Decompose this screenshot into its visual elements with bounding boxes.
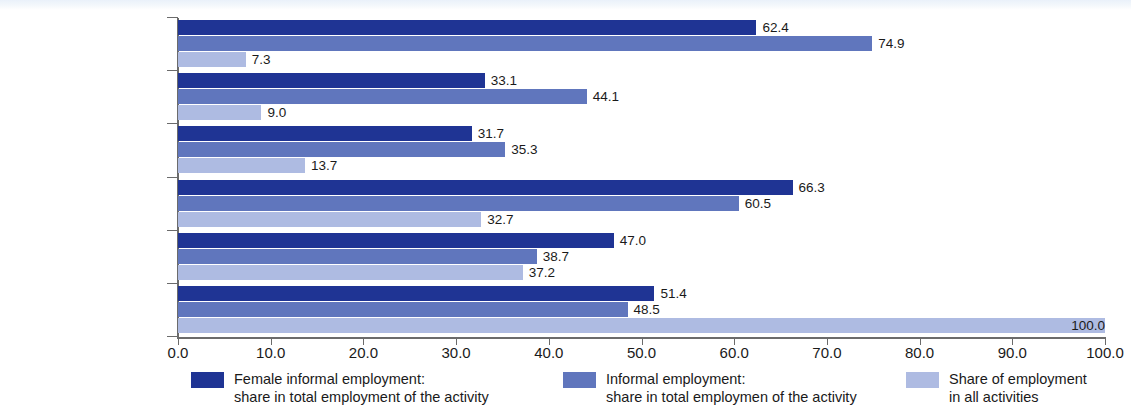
bar-value-label: 7.3 — [246, 52, 271, 67]
legend-label: Share of employment in all activities — [949, 370, 1087, 406]
x-tick-label: 30.0 — [441, 344, 470, 361]
bar-value-label: 66.3 — [793, 180, 825, 195]
legend-item-2: Share of employment in all activities — [906, 370, 1087, 406]
legend-item-1: Informal employment: share in total empl… — [563, 370, 857, 406]
bar-value-label: 37.2 — [523, 265, 555, 280]
x-tick-label: 70.0 — [812, 344, 841, 361]
bar-value-label: 47.0 — [614, 233, 646, 248]
bar-value-label: 38.7 — [537, 249, 569, 264]
bar-1 — [178, 196, 739, 211]
x-tick-label: 50.0 — [627, 344, 656, 361]
bar-1 — [178, 36, 872, 51]
chart-legend: Female informal employment: share in tot… — [0, 364, 1131, 418]
bar-0 — [178, 20, 756, 35]
legend-swatch-icon — [563, 372, 596, 388]
bar-0 — [178, 233, 614, 248]
y-tick — [167, 17, 178, 18]
bar-group: Services other than trade or transportat… — [0, 233, 927, 280]
bar-value-label: 35.3 — [505, 142, 537, 157]
legend-swatch-icon — [191, 372, 224, 388]
bar-value-label: 32.7 — [481, 212, 513, 227]
y-tick — [167, 70, 178, 71]
bar-value-label: 9.0 — [261, 105, 286, 120]
legend-item-0: Female informal employment: share in tot… — [191, 370, 489, 406]
legend-label: Informal employment: share in total empl… — [606, 370, 857, 406]
bar-value-label: 51.4 — [654, 286, 686, 301]
x-tick-label: 10.0 — [256, 344, 285, 361]
bar-value-label: 33.1 — [485, 73, 517, 88]
bar-2 — [178, 105, 261, 120]
x-tick-label: 60.0 — [720, 344, 749, 361]
x-tick-label: 40.0 — [534, 344, 563, 361]
x-tick-label: 80.0 — [905, 344, 934, 361]
bar-value-label: 100.0 — [1035, 318, 1112, 333]
bar-value-label: 48.5 — [628, 302, 660, 317]
y-tick — [167, 123, 178, 124]
horizontal-bar-chart: Construction62.474.97.3Transportation33.… — [0, 0, 1131, 360]
bar-0 — [178, 126, 472, 141]
bar-2 — [178, 52, 246, 67]
bar-2 — [178, 318, 1105, 333]
bar-group: Manufacturing31.735.313.7 — [0, 126, 927, 173]
bar-2 — [178, 158, 305, 173]
chart-screenshot: Construction62.474.97.3Transportation33.… — [0, 0, 1131, 418]
bar-value-label: 13.7 — [305, 158, 337, 173]
bar-value-label: 44.1 — [587, 89, 619, 104]
bar-0 — [178, 73, 485, 88]
bar-value-label: 74.9 — [872, 36, 904, 51]
bar-value-label: 31.7 — [472, 126, 504, 141]
legend-label: Female informal employment: share in tot… — [234, 370, 489, 406]
y-tick — [167, 283, 178, 284]
x-tick-label: 0.0 — [168, 344, 189, 361]
bar-1 — [178, 89, 587, 104]
bar-group: Transportation33.144.19.0 — [0, 73, 927, 120]
y-tick — [167, 177, 178, 178]
bar-1 — [178, 142, 505, 157]
y-tick — [167, 230, 178, 231]
bar-group: Construction62.474.97.3 — [0, 20, 927, 67]
x-tick-label: 90.0 — [998, 344, 1027, 361]
legend-swatch-icon — [906, 372, 939, 388]
bar-1 — [178, 249, 537, 264]
bar-value-label: 62.4 — [756, 20, 788, 35]
bar-2 — [178, 212, 481, 227]
x-tick-label: 20.0 — [349, 344, 378, 361]
y-tick — [167, 336, 178, 337]
bar-group: Trade66.360.532.7 — [0, 180, 927, 227]
x-tick-label: 100.0 — [1086, 344, 1124, 361]
bar-0 — [178, 180, 793, 195]
bar-1 — [178, 302, 628, 317]
bar-2 — [178, 265, 523, 280]
bar-group: All non-agricultural activities*51.448.5… — [0, 286, 927, 333]
bar-0 — [178, 286, 654, 301]
bar-value-label: 60.5 — [739, 196, 771, 211]
